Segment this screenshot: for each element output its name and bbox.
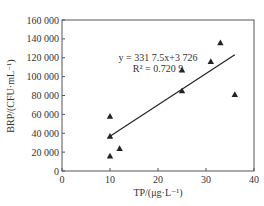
y-tick-label: 40 000	[32, 128, 60, 139]
scatter-chart: 010203040020 00040 00060 00080 000100 00…	[0, 0, 264, 206]
x-axis-label: TP/(μg·L⁻¹)	[133, 187, 182, 199]
ticks: 010203040020 00040 00060 00080 000100 00…	[27, 15, 260, 186]
r-squared-label: R² = 0.720 9	[133, 63, 183, 74]
data-point	[232, 91, 238, 97]
x-tick-label: 40	[249, 174, 259, 185]
y-tick-label: 120 000	[27, 52, 60, 63]
regression-equation: y = 331 7.5x+3 726	[119, 52, 198, 63]
y-tick-label: 0	[54, 166, 59, 177]
y-tick-label: 60 000	[32, 109, 60, 120]
data-point	[107, 133, 113, 139]
y-tick-label: 160 000	[27, 15, 60, 26]
data-point	[107, 153, 113, 159]
axes	[62, 20, 254, 171]
data-point	[217, 39, 223, 45]
y-axis-label: BRP/(CFU·mL⁻¹)	[5, 59, 17, 132]
x-tick-label: 10	[105, 174, 115, 185]
data-point	[116, 145, 122, 151]
y-tick-label: 20 000	[32, 147, 60, 158]
plot-frame	[62, 20, 254, 171]
data-point	[208, 58, 214, 64]
x-tick-label: 20	[153, 174, 163, 185]
data-point	[107, 113, 113, 119]
y-tick-label: 100 000	[27, 71, 60, 82]
y-tick-label: 140 000	[27, 33, 60, 44]
x-tick-label: 30	[201, 174, 211, 185]
y-tick-label: 80 000	[32, 90, 60, 101]
x-tick-label: 0	[60, 174, 65, 185]
